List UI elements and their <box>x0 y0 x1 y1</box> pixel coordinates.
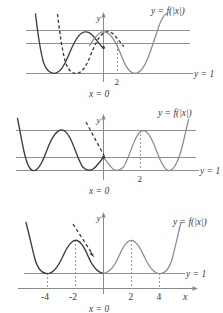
hline-label-middle: y = 1 <box>199 166 220 176</box>
x-tick-label-m4: -4 <box>41 292 49 302</box>
y-axis-label-top: y <box>96 13 101 23</box>
figure-container: y y = f(|x|) y = 1 2 x = 0 <box>0 0 223 313</box>
x-origin-label-middle: x = 0 <box>88 186 109 196</box>
three-panel-graph-figure: y y = f(|x|) y = 1 2 x = 0 <box>0 0 223 313</box>
x-tick-label-4: 4 <box>157 292 162 302</box>
y-axis-arrow-bottom <box>101 212 105 218</box>
y-axis-arrow-top <box>101 12 105 18</box>
y-axis-label-bottom: y <box>96 213 101 223</box>
y-axis-arrow-middle <box>101 114 105 120</box>
x-tick-label-m2: -2 <box>69 292 77 302</box>
intersection-dot-top <box>102 46 105 49</box>
x-origin-label-top: x = 0 <box>88 89 109 99</box>
x-tick-2-label-middle: 2 <box>138 174 143 184</box>
tangent-line-middle <box>86 122 105 157</box>
x-origin-label-bottom: x = 0 <box>88 304 109 313</box>
x-tick-label-2: 2 <box>129 292 134 302</box>
curve-right-gray-middle <box>104 120 189 171</box>
curve-label-bottom: y = f(|x|) <box>172 217 207 228</box>
x-axis-arrow-bottom <box>193 286 199 290</box>
panel-top: y y = f(|x|) y = 1 2 x = 0 <box>26 6 214 99</box>
curve-right-gray-bottom <box>104 223 182 274</box>
x-axis-label-bottom: x <box>182 291 188 302</box>
curve-left-dark-bottom <box>26 223 104 274</box>
tangent-arrow-bottom <box>90 252 95 257</box>
curve-label-top: y = f(|x|) <box>150 6 185 17</box>
curve-label-middle: y = f(|x|) <box>157 108 192 119</box>
intersection-dot-middle <box>102 156 105 159</box>
curve-left-dark-middle <box>18 119 104 171</box>
tangent-line-bottom <box>73 224 93 255</box>
panel-middle: y y = f(|x|) y = 1 2 x = 0 <box>16 108 220 196</box>
y-axis-label-middle: y <box>96 115 101 125</box>
x-tick-2-label-top: 2 <box>115 77 120 87</box>
panel-bottom: -4 -2 2 4 y y = f(|x|) y = 1 x x = 0 <box>18 212 207 313</box>
hline-label-top: y = 1 <box>193 69 214 79</box>
hline-label-bottom: y = 1 <box>185 269 206 279</box>
